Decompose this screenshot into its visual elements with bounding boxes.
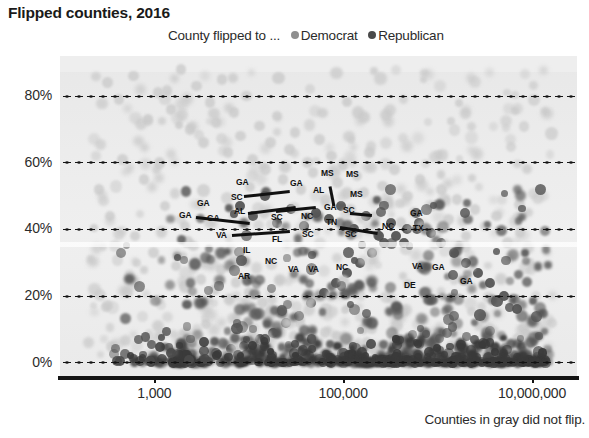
- annotation-label-ga: GA: [290, 179, 302, 188]
- scatter-point: [96, 98, 107, 109]
- scatter-point: [299, 275, 308, 284]
- scatter-point: [176, 64, 186, 74]
- scatter-point: [183, 322, 191, 330]
- scatter-point: [444, 273, 451, 280]
- scan-artifact-band: [60, 242, 577, 247]
- gridline-y-40: [60, 228, 577, 231]
- scatter-point: [385, 282, 396, 293]
- scatter-point: [399, 272, 407, 280]
- scatter-point: [398, 133, 408, 143]
- annotation-label-sc: SC: [302, 230, 313, 239]
- scatter-point: [379, 201, 388, 210]
- annotation-label-va: VA: [288, 265, 299, 274]
- scatter-point: [366, 339, 376, 349]
- annotation-label-il: IL: [243, 246, 250, 255]
- scatter-point: [271, 321, 282, 332]
- scatter-point: [278, 174, 288, 184]
- scatter-point: [366, 275, 378, 287]
- scatter-point: [263, 320, 271, 328]
- scatter-point: [136, 210, 144, 218]
- gridline-y-0: [60, 361, 577, 364]
- annotation-label-sc: SC: [271, 213, 282, 222]
- x-axis-line: [58, 376, 579, 380]
- scatter-point: [236, 321, 247, 332]
- scatter-point: [100, 335, 108, 343]
- scatter-point: [327, 282, 336, 291]
- scatter-point: [509, 298, 516, 305]
- scatter-point: [342, 97, 352, 107]
- annotation-label-va: VA: [308, 265, 319, 274]
- scatter-point: [217, 74, 227, 84]
- legend-label-republican: Republican: [378, 28, 444, 43]
- annotation-label-ga: GA: [179, 211, 191, 220]
- scatter-point: [317, 108, 327, 118]
- scatter-point: [165, 280, 175, 290]
- x-tick-1: [343, 376, 345, 383]
- scatter-point: [389, 164, 399, 174]
- scatter-point: [347, 301, 354, 308]
- scatter-point: [191, 81, 201, 91]
- scatter-point: [453, 246, 462, 255]
- annotation-label-ga: GA: [410, 209, 422, 218]
- scatter-point: [130, 231, 140, 241]
- scatter-point: [519, 121, 529, 131]
- scatter-point: [434, 80, 445, 91]
- annotation-label-ms: MS: [346, 170, 358, 179]
- scatter-point: [357, 347, 368, 358]
- scatter-point: [518, 205, 525, 212]
- chart-title: Flipped counties, 2016: [8, 4, 170, 22]
- scatter-point: [147, 182, 156, 191]
- scatter-point: [478, 338, 488, 348]
- legend-prefix: County flipped to ...: [168, 28, 280, 43]
- scatter-point: [529, 297, 537, 305]
- scatter-point: [154, 173, 164, 183]
- scatter-point: [186, 278, 196, 288]
- scatter-point: [224, 248, 231, 255]
- x-tick-0: [154, 376, 156, 383]
- scatter-point: [481, 327, 493, 339]
- scatter-point: [276, 306, 288, 318]
- annotation-label-ar: AR: [238, 272, 250, 281]
- scatter-point: [439, 246, 450, 257]
- scatter-point: [368, 257, 376, 265]
- scatter-point: [260, 143, 271, 154]
- y-tick-label-60: 60%: [0, 154, 52, 170]
- scatter-point: [158, 117, 166, 125]
- scatter-point: [312, 211, 323, 222]
- scatter-point: [224, 103, 234, 113]
- scatter-point: [174, 254, 181, 261]
- scatter-point: [133, 136, 143, 146]
- scatter-point: [197, 184, 210, 197]
- scatter-point: [468, 256, 479, 267]
- scatter-point: [396, 184, 405, 193]
- y-tick-label-20: 20%: [0, 287, 52, 303]
- gridline-y-60: [60, 161, 577, 164]
- annotation-label-sc: SC: [231, 193, 242, 202]
- scatter-point: [534, 262, 543, 271]
- scatter-point: [443, 179, 452, 188]
- y-tick-label-0: 0%: [0, 354, 52, 370]
- annotation-label-ga: GA: [460, 277, 472, 286]
- scatter-point: [249, 163, 261, 175]
- scatter-point: [424, 69, 434, 79]
- scatter-point: [501, 190, 508, 197]
- scatter-point: [97, 190, 107, 200]
- annotation-label-va: VA: [216, 231, 227, 240]
- scatter-point: [186, 335, 194, 343]
- scatter-point: [437, 149, 449, 161]
- scatter-point: [502, 345, 512, 355]
- annotation-label-nc: NC: [382, 222, 394, 231]
- scatter-point: [484, 221, 491, 228]
- annotation-label-nc: NC: [265, 257, 277, 266]
- scatter-point: [446, 343, 453, 350]
- scatter-point: [90, 308, 99, 317]
- scatter-point: [230, 333, 240, 343]
- scatter-point: [426, 188, 433, 195]
- scatter-point: [416, 340, 423, 347]
- scatter-point: [314, 134, 324, 144]
- scatter-point: [463, 215, 472, 224]
- scatter-point: [135, 84, 146, 95]
- scatter-point: [308, 167, 318, 177]
- scatter-point: [214, 275, 225, 286]
- scatter-point: [170, 188, 180, 198]
